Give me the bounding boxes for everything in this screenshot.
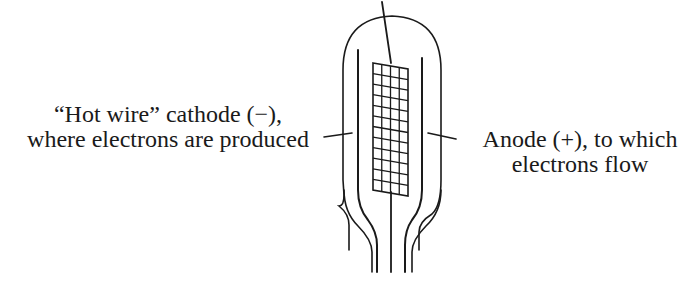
vacuum-tube-diagram xyxy=(0,0,700,293)
grid-top-lead xyxy=(382,2,391,63)
grid-mesh xyxy=(373,63,408,196)
anode-outer-lead xyxy=(412,190,441,272)
anode-pointer-line xyxy=(428,133,456,139)
cathode-pointer-line xyxy=(324,133,352,137)
